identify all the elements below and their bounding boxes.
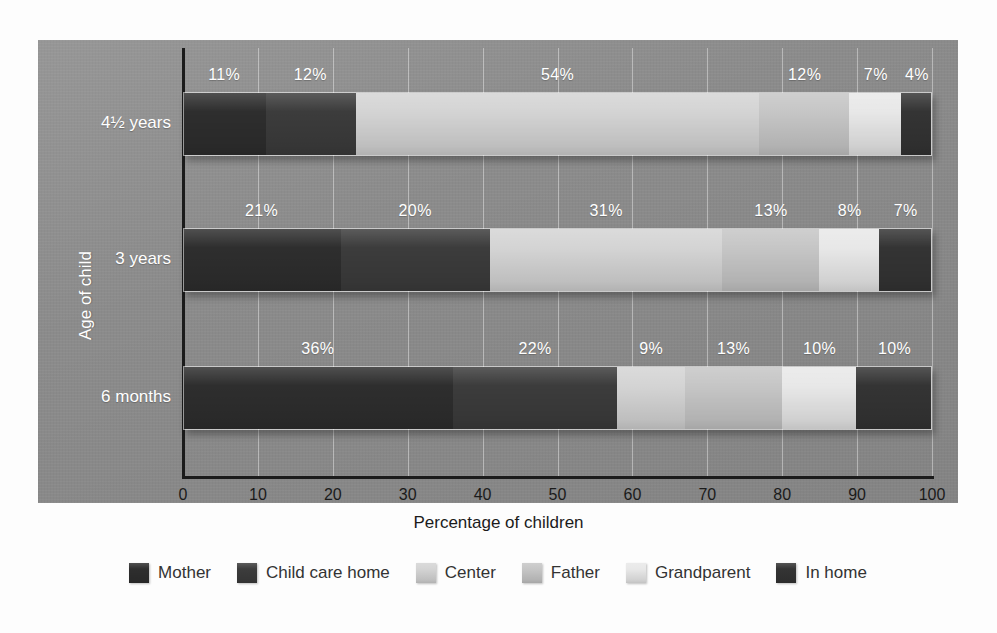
legend-item[interactable]: Center	[416, 563, 496, 583]
bar-segment-label: 7%	[864, 66, 888, 84]
legend-item[interactable]: Child care home	[237, 563, 390, 583]
x-axis-tick-label: 10	[249, 486, 267, 504]
x-axis-tick-label: 60	[623, 486, 641, 504]
bar-labels: 21%20%31%13%8%7%	[183, 202, 932, 226]
bar-segment[interactable]	[819, 229, 879, 291]
bar-group: 11%12%54%12%7%4%	[183, 92, 932, 156]
bar-segment-label: 10%	[878, 340, 911, 358]
bar-segment[interactable]	[453, 367, 617, 429]
bar-segment-label: 13%	[717, 340, 750, 358]
legend-label: Child care home	[266, 563, 390, 583]
bar-segment[interactable]	[685, 367, 782, 429]
bar-segment-label: 8%	[838, 202, 862, 220]
legend-item[interactable]: Father	[522, 563, 600, 583]
bar-group: 36%22%9%13%10%10%	[183, 366, 932, 430]
x-axis-tick-label: 100	[919, 486, 946, 504]
x-axis-tick-label: 20	[324, 486, 342, 504]
bar-segment[interactable]	[617, 367, 684, 429]
x-axis-tick-label: 0	[179, 486, 188, 504]
legend-swatch-icon	[129, 563, 149, 583]
y-axis-label: 3 years	[115, 249, 171, 269]
x-axis-tick-label: 30	[399, 486, 417, 504]
x-axis-tick-label: 40	[474, 486, 492, 504]
bar-segment-label: 9%	[639, 340, 663, 358]
stacked-bar	[183, 366, 932, 430]
bar-segment-label: 20%	[399, 202, 432, 220]
chart-root: Age of child 4½ years3 years6 months 11%…	[0, 0, 997, 633]
bar-labels: 11%12%54%12%7%4%	[183, 66, 932, 90]
bar-labels: 36%22%9%13%10%10%	[183, 340, 932, 364]
bar-segment-label: 12%	[294, 66, 327, 84]
bar-segment[interactable]	[849, 93, 901, 155]
x-axis-tick-label: 70	[698, 486, 716, 504]
gridline	[932, 48, 933, 476]
bar-segment[interactable]	[722, 229, 819, 291]
legend-swatch-icon	[522, 563, 542, 583]
legend-item[interactable]: In home	[776, 563, 866, 583]
legend-swatch-icon	[626, 563, 646, 583]
bar-segment-label: 7%	[894, 202, 918, 220]
legend-swatch-icon	[416, 563, 436, 583]
bar-segment-label: 11%	[208, 66, 240, 84]
legend-label: Center	[445, 563, 496, 583]
y-axis-label: 6 months	[101, 387, 171, 407]
bar-segment[interactable]	[879, 229, 931, 291]
bar-segment[interactable]	[782, 367, 857, 429]
bar-segment[interactable]	[356, 93, 759, 155]
bar-segment[interactable]	[901, 93, 931, 155]
bar-segment-label: 54%	[541, 66, 574, 84]
bar-segment-label: 4%	[905, 66, 929, 84]
legend-label: Father	[551, 563, 600, 583]
bar-segment[interactable]	[184, 367, 453, 429]
bar-segment[interactable]	[856, 367, 931, 429]
x-axis-tick-label: 80	[773, 486, 791, 504]
bar-segment-label: 12%	[788, 66, 821, 84]
x-axis-line	[182, 476, 934, 479]
bar-segment-label: 21%	[245, 202, 278, 220]
bar-segment[interactable]	[341, 229, 490, 291]
x-axis-tick-label: 50	[549, 486, 567, 504]
y-axis-title: Age of child	[76, 251, 96, 340]
legend-swatch-icon	[776, 563, 796, 583]
legend-swatch-icon	[237, 563, 257, 583]
chart-legend: MotherChild care homeCenterFatherGrandpa…	[38, 556, 958, 590]
bar-group: 21%20%31%13%8%7%	[183, 228, 932, 292]
bar-segment-label: 31%	[590, 202, 623, 220]
bar-segment-label: 22%	[518, 340, 551, 358]
y-axis-label: 4½ years	[101, 113, 171, 133]
legend-label: In home	[805, 563, 866, 583]
stacked-bar	[183, 228, 932, 292]
bar-segment[interactable]	[184, 229, 341, 291]
bar-segment-label: 36%	[301, 340, 334, 358]
bar-segment-label: 10%	[803, 340, 836, 358]
x-axis-tick-label: 90	[848, 486, 866, 504]
stacked-bar	[183, 92, 932, 156]
legend-item[interactable]: Grandparent	[626, 563, 750, 583]
legend-label: Mother	[158, 563, 211, 583]
legend-item[interactable]: Mother	[129, 563, 211, 583]
bar-segment[interactable]	[184, 93, 266, 155]
legend-label: Grandparent	[655, 563, 750, 583]
x-axis-title: Percentage of children	[0, 513, 997, 533]
bar-segment[interactable]	[490, 229, 722, 291]
chart-panel: Age of child 4½ years3 years6 months 11%…	[38, 40, 958, 503]
bar-segment[interactable]	[266, 93, 356, 155]
bar-segment-label: 13%	[754, 202, 787, 220]
bar-segment[interactable]	[759, 93, 849, 155]
